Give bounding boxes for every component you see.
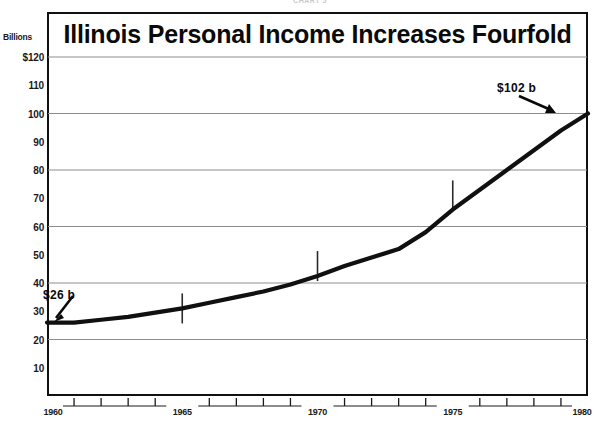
y-tick-label: 100	[2, 108, 44, 119]
gridlines	[48, 57, 587, 340]
y-tick-label: 40	[2, 278, 44, 289]
y-tick-label: 50	[2, 249, 44, 260]
x-axis: 19601965197019751980	[0, 396, 602, 424]
annotation-end-value: $102 b	[497, 81, 536, 95]
x-tick-label: 1980	[572, 407, 591, 417]
title-band: Illinois Personal Income Increases Fourf…	[47, 12, 588, 57]
y-tick-label: 90	[2, 136, 44, 147]
x-tick-label: 1960	[43, 407, 62, 417]
plot-canvas	[0, 0, 602, 424]
y-tick-label: 110	[2, 80, 44, 91]
y-axis: Billions $120110100908070605040302010	[0, 0, 44, 424]
x-axis-ticks	[0, 396, 602, 424]
y-tick-label: 20	[2, 334, 44, 345]
y-axis-unit-label: Billions	[3, 32, 32, 42]
chart-title: Illinois Personal Income Increases Fourf…	[63, 20, 571, 49]
y-tick-label: 10	[2, 362, 44, 373]
y-tick-label: 80	[2, 165, 44, 176]
chart-figure: CHART 5 Illinois Personal Income Increas…	[0, 0, 602, 424]
income-line-series	[47, 114, 588, 323]
y-tick-label: 70	[2, 193, 44, 204]
y-tick-label: 60	[2, 221, 44, 232]
x-tick-label: 1970	[308, 407, 327, 417]
y-tick-label: $120	[2, 52, 44, 63]
annotation-start-value: $26 b	[43, 288, 75, 302]
annotation-arrow-end	[519, 96, 556, 113]
x-tick-label: 1965	[173, 407, 192, 417]
y-tick-label: 30	[2, 306, 44, 317]
x-tick-label: 1975	[443, 407, 462, 417]
